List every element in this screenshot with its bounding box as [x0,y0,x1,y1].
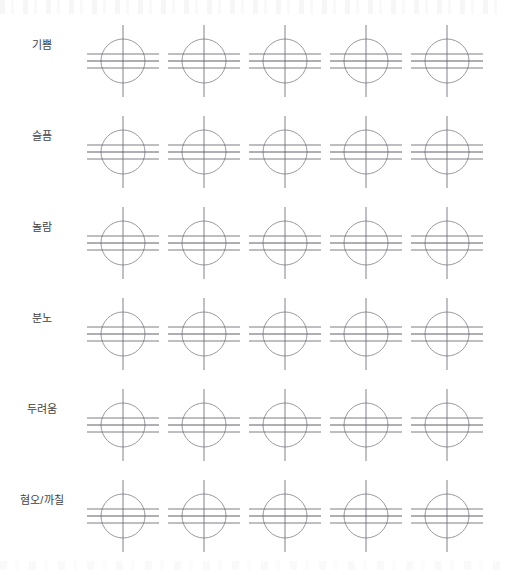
emotion-row: 놀람 [0,198,506,289]
diagram-cell[interactable] [173,289,245,380]
diagram-cell[interactable] [416,471,488,562]
diagram-cell[interactable] [335,16,407,107]
diagram-cell[interactable] [92,471,164,562]
circle-crosshair-icon [254,471,326,562]
diagram-cell[interactable] [254,16,326,107]
circle-crosshair-icon [254,380,326,471]
diagram-cell-group [92,380,506,471]
circle-crosshair-icon [335,380,407,471]
diagram-cell[interactable] [173,198,245,289]
circle-crosshair-icon [254,107,326,198]
emotion-row: 혐오/까칠 [0,471,506,562]
circle-crosshair-icon [92,471,164,562]
diagram-cell[interactable] [416,107,488,198]
circle-crosshair-icon [416,198,488,289]
circle-crosshair-icon [92,107,164,198]
diagram-cell[interactable] [335,289,407,380]
circle-crosshair-icon [416,107,488,198]
circle-crosshair-icon [416,289,488,380]
diagram-cell[interactable] [416,198,488,289]
row-label-sadness: 슬픔 [0,129,84,143]
diagram-cell[interactable] [335,107,407,198]
circle-crosshair-icon [254,198,326,289]
row-label-fear: 두려움 [0,402,84,416]
diagram-cell-group [92,16,506,107]
emotion-row: 두려움 [0,380,506,471]
emotion-worksheet-page: 기쁨슬픔놀람분노두려움혐오/까칠 [0,0,506,575]
row-label-surprise: 놀람 [0,220,84,234]
diagram-cell[interactable] [254,107,326,198]
diagram-cell-group [92,289,506,380]
diagram-cell[interactable] [173,380,245,471]
circle-crosshair-icon [416,380,488,471]
circle-crosshair-icon [254,16,326,107]
row-label-joy: 기쁨 [0,38,84,52]
emotion-row: 분노 [0,289,506,380]
diagram-cell[interactable] [254,471,326,562]
circle-crosshair-icon [173,471,245,562]
diagram-cell[interactable] [254,380,326,471]
diagram-cell[interactable] [416,289,488,380]
emotion-grid: 기쁨슬픔놀람분노두려움혐오/까칠 [0,0,506,575]
circle-crosshair-icon [173,107,245,198]
circle-crosshair-icon [335,471,407,562]
emotion-row: 기쁨 [0,16,506,107]
diagram-cell[interactable] [92,16,164,107]
diagram-cell[interactable] [254,198,326,289]
diagram-cell[interactable] [254,289,326,380]
diagram-cell[interactable] [335,198,407,289]
circle-crosshair-icon [92,380,164,471]
diagram-cell[interactable] [416,380,488,471]
circle-crosshair-icon [416,471,488,562]
diagram-cell[interactable] [335,380,407,471]
circle-crosshair-icon [254,289,326,380]
diagram-cell[interactable] [92,380,164,471]
row-label-disgust: 혐오/까칠 [0,493,84,507]
diagram-cell[interactable] [173,16,245,107]
row-label-anger: 분노 [0,311,84,325]
diagram-cell[interactable] [335,471,407,562]
circle-crosshair-icon [173,380,245,471]
diagram-cell-group [92,198,506,289]
diagram-cell[interactable] [416,16,488,107]
diagram-cell[interactable] [173,107,245,198]
diagram-cell[interactable] [92,289,164,380]
diagram-cell[interactable] [173,471,245,562]
diagram-cell[interactable] [92,107,164,198]
circle-crosshair-icon [92,16,164,107]
diagram-cell[interactable] [92,198,164,289]
emotion-row: 슬픔 [0,107,506,198]
circle-crosshair-icon [173,16,245,107]
circle-crosshair-icon [335,107,407,198]
circle-crosshair-icon [416,16,488,107]
diagram-cell-group [92,107,506,198]
circle-crosshair-icon [173,289,245,380]
circle-crosshair-icon [335,16,407,107]
circle-crosshair-icon [92,198,164,289]
circle-crosshair-icon [92,289,164,380]
diagram-cell-group [92,471,506,562]
circle-crosshair-icon [335,198,407,289]
circle-crosshair-icon [173,198,245,289]
circle-crosshair-icon [335,289,407,380]
